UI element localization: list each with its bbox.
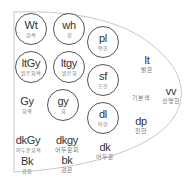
tone-abbr: ltgy (61, 58, 77, 69)
tone-Gy[interactable]: Gy 회색 (20, 96, 33, 114)
tone-circle-pl[interactable]: pl 연한 (87, 26, 119, 58)
tone-circle-Wt[interactable]: Wt 흰색 (15, 13, 47, 45)
tone-label: 밝은 (141, 67, 153, 73)
tone-abbr: vv (162, 86, 180, 97)
tone-label: 어두운 (96, 154, 114, 160)
tone-abbr: gy (57, 96, 68, 107)
tone-dkGy[interactable]: dkGy 어두운회색 (16, 135, 41, 153)
tone-lt[interactable]: lt 밝은 (141, 55, 153, 73)
tone-abbr: ltGy (22, 58, 40, 69)
tone-abbr: dp (135, 116, 147, 127)
tone-label: 검은 (61, 167, 73, 173)
tone-dkgy[interactable]: dkgy 어두운회 (55, 135, 79, 153)
tone-abbr: Bk (21, 156, 33, 167)
tone-dp[interactable]: dp 진한 (135, 116, 147, 134)
region-label: 기본색 (132, 95, 150, 101)
tone-abbr: Wt (25, 20, 38, 31)
tone-abbr: sf (99, 71, 107, 82)
tone-Bk[interactable]: Bk 검정 (21, 156, 33, 174)
tone-label: 회색 (20, 108, 33, 114)
tone-label: 선명한 (162, 98, 180, 104)
tone-abbr: lt (141, 55, 153, 66)
tone-label: 어두운회색 (16, 147, 41, 153)
tone-label: 흐린 (98, 83, 108, 89)
basic-color-label: 기본색 (132, 94, 150, 101)
tone-label: 밝은회색 (21, 70, 41, 76)
tone-vv[interactable]: vv 선명한 (162, 86, 180, 104)
tone-circle-ltgy[interactable]: ltgy 밝은회 (53, 51, 85, 83)
tone-abbr: dk (96, 142, 114, 153)
tone-circle-sf[interactable]: sf 흐린 (87, 64, 119, 96)
tone-label: 흰 (67, 32, 72, 38)
tone-abbr: dkgy (55, 135, 79, 146)
tone-circle-gy[interactable]: gy 회 (47, 89, 79, 121)
tone-label: 탁한 (98, 121, 108, 127)
tone-abbr: pl (99, 33, 107, 44)
tone-abbr: dkGy (16, 135, 41, 146)
tone-abbr: Gy (20, 96, 33, 107)
tone-circle-wh[interactable]: wh 흰 (53, 13, 85, 45)
tone-label: 흰색 (26, 32, 36, 38)
tone-label: 회 (61, 108, 66, 114)
tone-label: 연한 (98, 45, 108, 51)
tone-bk[interactable]: bk 검은 (61, 155, 73, 173)
tone-abbr: wh (62, 20, 75, 31)
tone-label: 검정 (21, 168, 33, 174)
tone-abbr: dl (99, 109, 107, 120)
tone-label: 진한 (135, 128, 147, 134)
tone-circle-ltGy[interactable]: ltGy 밝은회색 (15, 51, 47, 83)
tone-label: 어두운회 (55, 147, 79, 153)
tone-circle-dl[interactable]: dl 탁한 (87, 102, 119, 134)
tone-label: 밝은회 (62, 70, 77, 76)
tone-abbr: bk (61, 155, 73, 166)
tone-diagram: Wt 흰색 wh 흰 ltGy 밝은회색 ltgy 밝은회 gy 회 pl 연한… (0, 0, 189, 180)
tone-dk[interactable]: dk 어두운 (96, 142, 114, 160)
